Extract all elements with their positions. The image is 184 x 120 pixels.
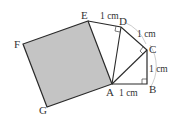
label-d: D: [119, 15, 127, 27]
measure-ab: 1 cm: [119, 88, 138, 98]
right-angle-mark-c: [140, 47, 143, 54]
label-b: B: [149, 83, 156, 95]
geometry-figure: E D C B A F G 1 cm 1 cm 1 cm 1 cm: [0, 0, 184, 120]
label-a: A: [106, 86, 114, 98]
right-angle-mark-b: [142, 79, 147, 84]
measure-ed: 1 cm: [100, 11, 119, 21]
label-g: G: [39, 104, 47, 116]
shaded-square-aefg: [23, 21, 112, 107]
measure-cb: 1 cm: [149, 64, 168, 74]
segment-ad: [112, 27, 121, 84]
label-e: E: [81, 9, 88, 21]
label-f: F: [14, 38, 20, 50]
measure-dc: 1 cm: [137, 29, 156, 39]
label-c: C: [149, 43, 156, 55]
